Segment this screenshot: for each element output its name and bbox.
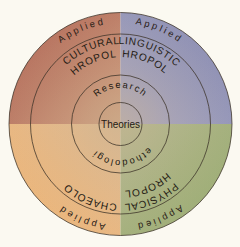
theories-center-label: Theories [101,119,140,130]
diagram-canvas: Applied Applied Applied Applied CULTURAL… [0,0,240,247]
anthropology-subfields-diagram: Applied Applied Applied Applied CULTURAL… [0,0,240,247]
